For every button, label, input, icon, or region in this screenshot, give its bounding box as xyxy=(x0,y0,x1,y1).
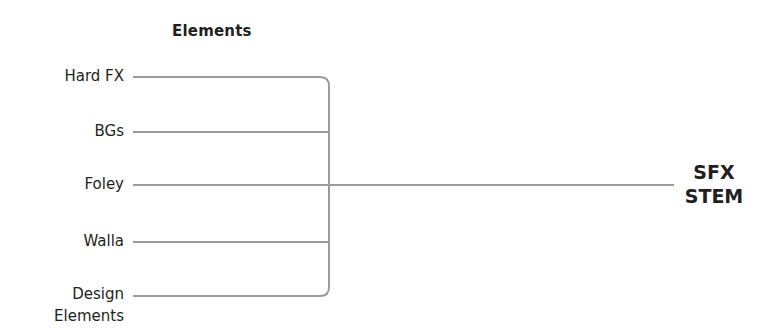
input-label-design: Design xyxy=(72,284,124,304)
bracket xyxy=(320,77,329,296)
sfx-stem-diagram: Elements Hard FX BGs Foley Walla Design … xyxy=(0,0,784,334)
input-label-elements: Elements xyxy=(54,306,124,326)
input-label-hard-fx: Hard FX xyxy=(64,66,124,86)
input-label-foley: Foley xyxy=(84,174,124,194)
output-line1: SFX xyxy=(680,160,748,184)
diagram-title: Elements xyxy=(172,22,252,40)
input-label-bgs: BGs xyxy=(95,121,124,141)
output-sfx-stem: SFX STEM xyxy=(680,160,748,208)
input-label-walla: Walla xyxy=(83,231,124,251)
output-line2: STEM xyxy=(680,184,748,208)
